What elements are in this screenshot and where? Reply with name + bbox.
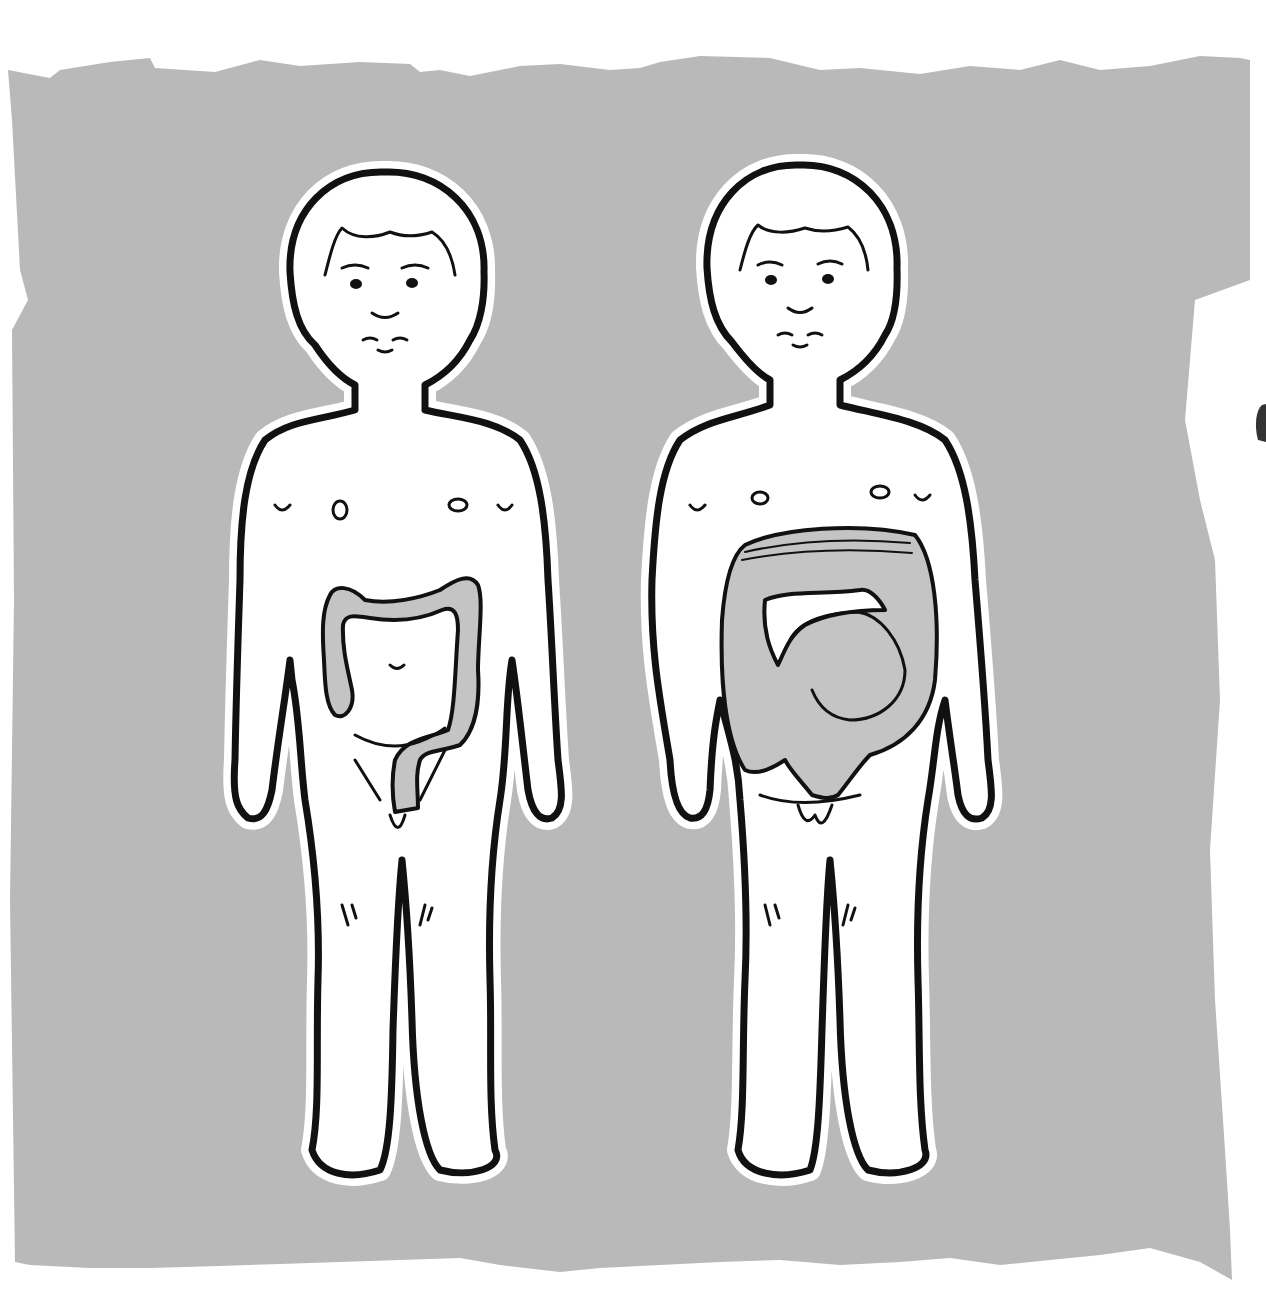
edge-mark <box>1256 404 1266 442</box>
medical-illustration <box>0 0 1266 1314</box>
torn-paper-background <box>8 56 1250 1280</box>
